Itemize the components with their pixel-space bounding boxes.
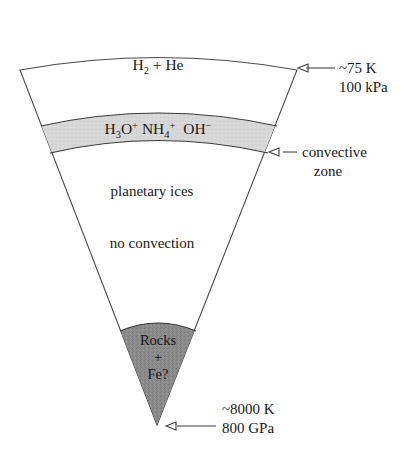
annotation-convective-zone: convective zone — [269, 144, 367, 179]
arrow-head-convective — [269, 148, 279, 156]
core-label-line2: + — [154, 349, 162, 365]
interior-structure-diagram: H2 + He H3O+ NH4+ OH− planetary ices no … — [0, 0, 405, 456]
center-temperature-label: ~8000 K — [222, 401, 275, 417]
convective-zone-label-line1: convective — [302, 144, 367, 160]
planetary-ices-label: planetary ices — [111, 183, 194, 199]
convective-zone-label-line2: zone — [314, 163, 343, 179]
no-convection-label: no convection — [110, 235, 195, 251]
outer-pressure-label: 100 kPa — [339, 79, 388, 95]
arrow-head-center — [166, 422, 176, 430]
annotation-outer-boundary-conditions: ~75 K 100 kPa — [298, 60, 388, 95]
wedge-diagram-canvas: H2 + He H3O+ NH4+ OH− planetary ices no … — [0, 0, 405, 456]
center-pressure-label: 800 GPa — [222, 420, 274, 436]
outer-temperature-label: ~75 K — [339, 60, 377, 76]
core-label-line1: Rocks — [140, 332, 177, 348]
core-label-line3: Fe? — [148, 366, 169, 382]
annotation-center-conditions: ~8000 K 800 GPa — [166, 401, 275, 436]
